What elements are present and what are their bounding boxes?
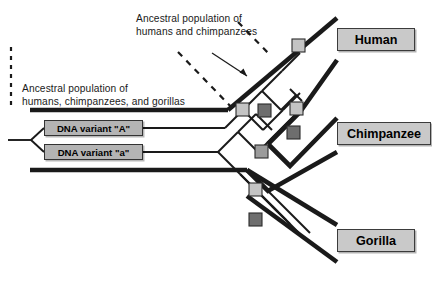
marker-m4-square xyxy=(290,102,303,115)
gene-root-branch-upper xyxy=(31,128,44,140)
annotation-hcg-line2: humans, chimpanzees, and gorillas xyxy=(22,96,185,107)
marker-m2-square xyxy=(236,103,249,116)
marker-m8-square xyxy=(249,213,262,226)
dna-variant-a-upper-text: DNA variant "A" xyxy=(57,123,130,134)
gene-a-up-cross xyxy=(218,132,238,152)
annotation-hc-line2: humans and chimpanzees xyxy=(136,26,257,37)
taxon-label-human-text: Human xyxy=(355,33,398,47)
diagram-canvas: Ancestral population ofhumans and chimpa… xyxy=(0,0,432,282)
marker-m7-square xyxy=(249,183,262,196)
taxon-label-chimpanzee-text: Chimpanzee xyxy=(347,127,421,141)
gene-root-branch-lower xyxy=(31,140,44,152)
taxon-label-gorilla: Gorilla xyxy=(337,229,415,252)
dna-variant-a-lower-box: DNA variant "a" xyxy=(44,144,143,160)
annotation-ancestral-hc: Ancestral population ofhumans and chimpa… xyxy=(136,13,257,38)
marker-m6-square xyxy=(255,145,268,158)
annotation-hc-line1: Ancestral population of xyxy=(136,13,242,24)
marker-m1-square xyxy=(292,39,305,52)
gene-gorilla-tip2 xyxy=(262,196,300,234)
annotation-ancestral-hcg: Ancestral population ofhumans, chimpanze… xyxy=(22,83,185,108)
taxon-label-gorilla-text: Gorilla xyxy=(356,234,396,248)
dna-variant-a-lower-text: DNA variant "a" xyxy=(58,147,130,158)
gene-a-alt-up xyxy=(238,114,256,132)
taxon-label-human: Human xyxy=(337,28,415,51)
marker-m5-square xyxy=(287,126,300,139)
marker-m3-square xyxy=(258,104,271,117)
dna-variant-a-upper-box: DNA variant "A" xyxy=(44,120,143,136)
callout-arrow xyxy=(212,53,247,76)
taxon-label-chimpanzee: Chimpanzee xyxy=(337,122,431,145)
pop-gorilla-lower-wall xyxy=(247,196,337,262)
dashed-boundary-lower xyxy=(178,52,236,112)
annotation-hcg-line1: Ancestral population of xyxy=(22,83,128,94)
